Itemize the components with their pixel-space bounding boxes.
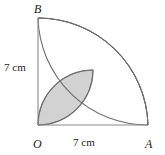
dimension-label-horizontal: 7 cm <box>73 137 95 148</box>
dimension-label-vertical: 7 cm <box>4 62 26 73</box>
vertex-label-B: B <box>34 3 41 15</box>
vertex-label-O: O <box>33 138 42 150</box>
figure-canvas <box>0 0 165 155</box>
shaded-region-lens <box>38 70 93 125</box>
geometry-figure: B O A 7 cm 7 cm <box>0 0 165 155</box>
vertex-label-A: A <box>145 138 152 150</box>
